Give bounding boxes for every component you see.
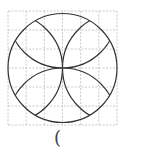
inner-arcs <box>0 0 151 155</box>
geometry-figure <box>0 0 151 155</box>
answer-bracket: ( <box>54 129 61 147</box>
